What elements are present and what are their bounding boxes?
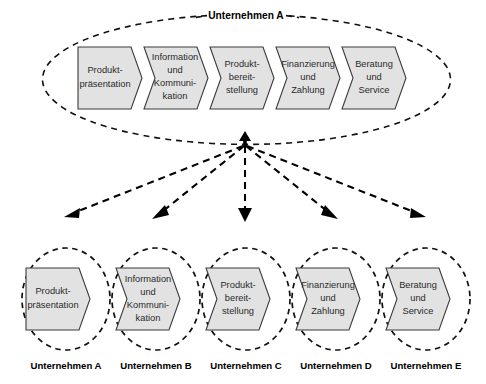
- chevron-produktpraesentation-line-1: präsentation: [79, 79, 130, 89]
- arrow-to-node-e-head: [410, 208, 426, 218]
- chevron-finanzierung-zahlung-line-0: Finanzierung: [281, 59, 335, 69]
- node-unternehmen-d-stage-line-1: und: [320, 293, 336, 303]
- node-unternehmen-e: Beratung und Service Unternehmen E: [382, 248, 470, 371]
- chevron-produktpraesentation-line-0: Produkt-: [87, 65, 122, 75]
- chevron-information-kommunikation-line-0: Information: [152, 52, 199, 62]
- node-unternehmen-a-shape: [26, 268, 90, 330]
- chevron-produktbereitstellung-line-2: stellung: [226, 85, 258, 95]
- arrow-to-node-a-line: [76, 146, 243, 212]
- chevron-produktbereitstellung-line-0: Produkt-: [224, 59, 259, 69]
- chevron-information-kommunikation-line-3: kation: [163, 91, 188, 101]
- top-group-title: Unternehmen A: [208, 10, 284, 21]
- chevron-beratung-service-line-0: Beratung: [355, 59, 393, 69]
- node-unternehmen-a: Produkt- präsentation Unternehmen A: [22, 248, 110, 371]
- node-unternehmen-b-stage-line-1: und: [140, 287, 156, 297]
- node-unternehmen-b: Information und Kommuni- kation Unterneh…: [112, 248, 200, 371]
- arrow-to-node-e-line: [247, 146, 414, 212]
- node-unternehmen-e-stage-line-2: Service: [402, 306, 433, 316]
- node-unternehmen-a-stage-line-1: präsentation: [27, 300, 78, 310]
- chevron-produktpraesentation: [78, 47, 142, 109]
- node-unternehmen-b-stage-line-2: Kommuni-: [127, 300, 169, 310]
- chevron-finanzierung-zahlung-line-2: Zahlung: [291, 85, 325, 95]
- node-unternehmen-c-caption: Unternehmen C: [210, 360, 282, 371]
- node-unternehmen-b-caption: Unternehmen B: [120, 360, 192, 371]
- chevron-produktbereitstellung-line-1: bereit-: [229, 72, 255, 82]
- node-unternehmen-c-stage-line-0: Produkt-: [220, 280, 255, 290]
- node-unternehmen-b-stage-line-0: Information: [125, 274, 172, 284]
- node-unternehmen-d-stage-line-0: Finanzierung: [301, 280, 355, 290]
- chevron-finanzierung-zahlung-line-1: und: [300, 72, 316, 82]
- node-unternehmen-b-stage-line-3: kation: [136, 313, 161, 323]
- node-unternehmen-d: Finanzierung und Zahlung Unternehmen D: [292, 248, 380, 371]
- chevron-information-kommunikation-line-1: und: [167, 65, 183, 75]
- chevron-beratung-service-line-1: und: [366, 72, 382, 82]
- value-chain-disaggregation-diagram: Unternehmen A Produkt- präsentation Info…: [0, 0, 486, 384]
- node-unternehmen-c: Produkt- bereit- stellung Unternehmen C: [202, 248, 290, 371]
- node-unternehmen-a-caption: Unternehmen A: [30, 360, 101, 371]
- node-unternehmen-e-stage-line-1: und: [410, 293, 426, 303]
- node-unternehmen-d-caption: Unternehmen D: [300, 360, 372, 371]
- node-unternehmen-c-stage-line-1: bereit-: [225, 293, 251, 303]
- diagram-canvas: Unternehmen A Produkt- präsentation Info…: [0, 0, 486, 384]
- node-unternehmen-c-stage-line-2: stellung: [222, 306, 254, 316]
- top-chevron-row: Produkt- präsentation Information und Ko…: [78, 47, 406, 109]
- arrow-to-node-c-head: [238, 208, 252, 222]
- chevron-information-kommunikation-line-2: Kommuni-: [154, 78, 196, 88]
- node-unternehmen-e-caption: Unternehmen E: [391, 360, 463, 371]
- chevron-beratung-service-line-2: Service: [358, 85, 389, 95]
- node-unternehmen-e-stage-line-0: Beratung: [399, 280, 437, 290]
- node-unternehmen-d-stage-line-2: Zahlung: [311, 306, 345, 316]
- node-unternehmen-a-stage-line-0: Produkt-: [35, 286, 70, 296]
- arrow-to-node-d-line: [246, 146, 327, 211]
- distribution-arrows: [64, 146, 426, 222]
- arrow-to-node-a-head: [64, 208, 80, 218]
- arrow-to-node-b-line: [163, 146, 244, 211]
- upward-arrow-icon: [239, 131, 251, 146]
